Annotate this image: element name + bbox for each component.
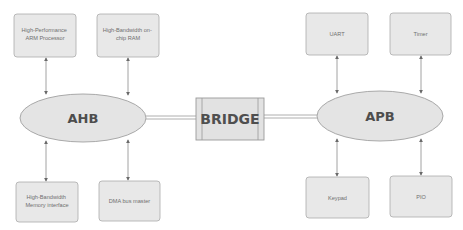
onchip-ram-label-line1: High-Bandwidth on- (103, 27, 152, 33)
memory-interface-label-line1: High-Bandwidth (26, 194, 66, 200)
arm-processor-label-line2: ARM Processor (25, 35, 64, 41)
apb-label: APB (365, 109, 395, 124)
ahb-label: AHB (68, 111, 99, 126)
apb-bus[interactable]: APB (317, 91, 443, 141)
amba-bus-diagram: AHB APB BRIDGE High-Performance ARM Proc… (0, 0, 463, 230)
dma-bus-master-label: DMA bus master (109, 198, 150, 204)
arm-processor-label-line1: High-Performance (22, 27, 67, 33)
component-keypad[interactable]: Keypad (306, 177, 369, 218)
pio-label: PIO (416, 194, 426, 200)
keypad-label: Keypad (328, 195, 347, 201)
component-uart[interactable]: UART (306, 13, 368, 55)
component-timer[interactable]: Timer (390, 13, 451, 55)
component-onchip-ram[interactable]: High-Bandwidth on- chip RAM (97, 14, 159, 57)
ahb-bus[interactable]: AHB (20, 94, 146, 142)
component-dma-bus-master[interactable]: DMA bus master (99, 181, 160, 221)
component-memory-interface[interactable]: High-Bandwidth Memory interface (16, 182, 78, 222)
bridge[interactable]: BRIDGE (196, 98, 264, 140)
onchip-ram-label-line2: chip RAM (116, 35, 141, 41)
component-pio[interactable]: PIO (390, 176, 452, 217)
component-arm-processor[interactable]: High-Performance ARM Processor (14, 14, 76, 57)
bridge-label: BRIDGE (200, 111, 259, 127)
memory-interface-label-line2: Memory interface (25, 202, 68, 208)
timer-label: Timer (413, 31, 427, 37)
uart-label: UART (329, 31, 345, 37)
